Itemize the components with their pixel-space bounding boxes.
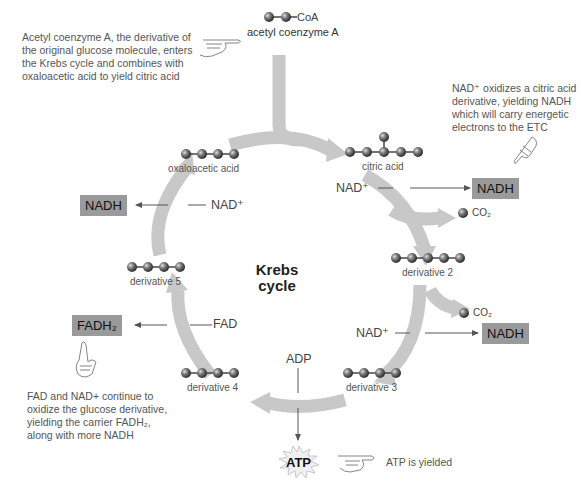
pointing-hand-icon-fadh2: [76, 342, 96, 377]
adp-input: ADP: [286, 352, 312, 366]
note-line: yielding the carrier FADH₂,: [27, 416, 167, 429]
derivative-5-molecule: [127, 262, 185, 272]
pointing-hand-icon-atp: [338, 456, 374, 472]
derivative-5-label: derivative 5: [130, 276, 181, 287]
citric-acid-molecule: [345, 132, 423, 157]
note-fad-nad: FAD and NAD+ continue to oxidize the glu…: [27, 390, 167, 442]
co2-ball-1: [458, 208, 468, 218]
note-line: electrons to the ETC: [452, 121, 576, 134]
nadh-product-1: NADH: [472, 178, 519, 199]
note-line: oxaloacetic acid to yield citric acid: [22, 70, 192, 83]
fadh2-product: FADH₂: [72, 315, 122, 336]
atp-product: ATP: [286, 455, 311, 470]
co2-product-1: CO₂: [472, 207, 491, 218]
note-line: FAD and NAD+ continue to: [27, 390, 167, 403]
note-line: oxidize the glucose derivative,: [27, 403, 167, 416]
krebs-cycle-title: Krebs cycle: [252, 262, 302, 294]
co2-ball-2: [459, 308, 469, 318]
derivative-3-label: derivative 3: [346, 382, 397, 393]
title-line: cycle: [252, 278, 302, 294]
note-acetyl-intro: Acetyl coenzyme A, the derivative of the…: [22, 31, 192, 83]
nad-input-1: NAD⁺: [336, 180, 369, 195]
note-line: NAD⁺ oxidizes a citric acid: [452, 82, 576, 95]
coa-tag: CoA: [297, 11, 318, 23]
pointing-hand-icon-left: [200, 40, 241, 57]
derivative-2-label: derivative 2: [402, 267, 453, 278]
citric-acid-label: citric acid: [362, 161, 404, 172]
note-line: derivative, yielding NADH: [452, 95, 576, 108]
nadh-product-3: NADH: [80, 195, 127, 216]
oxaloacetic-acid-label: oxaloacetic acid: [168, 163, 239, 174]
note-line: along with more NADH: [27, 429, 167, 442]
note-line: which will carry energetic: [452, 108, 576, 121]
note-line: Acetyl coenzyme A, the derivative of: [22, 31, 192, 44]
title-line: Krebs: [252, 262, 302, 278]
note-atp-yielded: ATP is yielded: [386, 456, 452, 469]
pointing-hand-icon-right: [514, 137, 536, 163]
acetyl-coa-molecule: [264, 12, 297, 22]
derivative-2-molecule: [391, 253, 465, 263]
note-line: the original glucose molecule, enters: [22, 44, 192, 57]
nad-input-3: NAD⁺: [211, 197, 244, 212]
acetyl-coa-label: acetyl coenzyme A: [247, 26, 339, 38]
nadh-product-2: NADH: [482, 323, 529, 344]
note-line: the Krebs cycle and combines with: [22, 57, 192, 70]
entry-arrow: [279, 55, 300, 140]
co2-product-2: CO₂: [473, 307, 492, 318]
note-nad-oxidizes: NAD⁺ oxidizes a citric acid derivative, …: [452, 82, 576, 134]
fad-input: FAD: [213, 317, 237, 331]
derivative-4-label: derivative 4: [187, 382, 238, 393]
nad-input-2: NAD⁺: [356, 325, 389, 340]
